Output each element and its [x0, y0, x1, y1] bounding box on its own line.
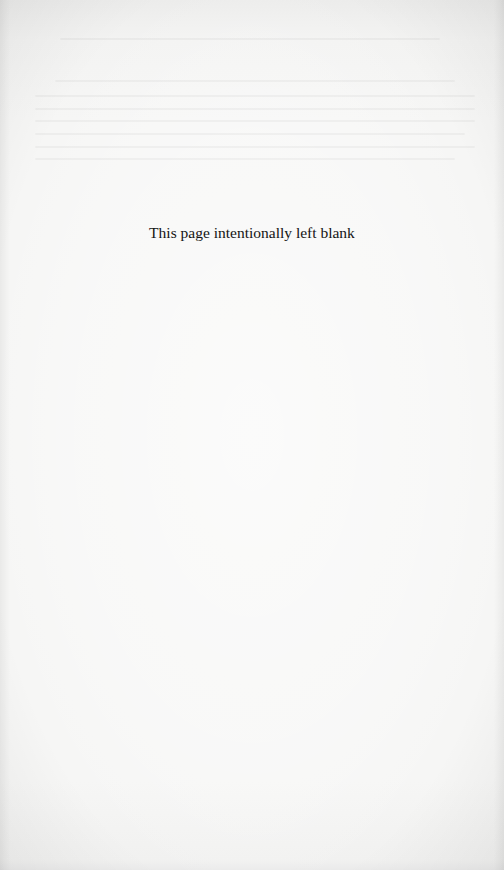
page-edge-shadow-left — [0, 0, 10, 870]
show-through-line — [35, 158, 455, 160]
show-through-line — [35, 146, 475, 148]
blank-page-notice: This page intentionally left blank — [0, 224, 504, 242]
show-through-line — [35, 95, 475, 97]
page-edge-shadow-right — [494, 0, 504, 870]
show-through-line — [55, 80, 455, 82]
show-through-line — [35, 120, 475, 122]
show-through-line — [60, 38, 440, 40]
show-through-line — [35, 133, 465, 135]
show-through-line — [35, 108, 475, 110]
blank-page: This page intentionally left blank — [0, 0, 504, 870]
